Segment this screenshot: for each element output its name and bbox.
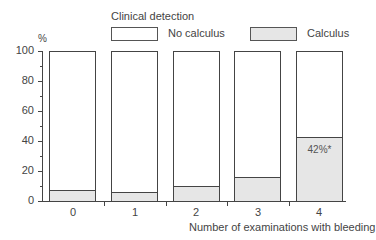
y-tick-label: 80 [6,74,34,86]
bar-3-calculus [235,177,280,201]
legend-swatch-calculus [250,27,297,41]
y-minor-tick [40,126,42,127]
bar-2 [173,51,220,202]
y-tick [38,81,42,82]
y-axis-line [42,51,43,202]
x-tick [227,202,228,206]
x-tick [104,202,105,206]
x-tick-label: 1 [125,206,145,218]
y-tick [38,171,42,172]
y-tick [38,201,42,202]
x-tick-label: 4 [309,206,329,218]
bar-1-calculus [112,192,157,201]
y-tick-label: 0 [6,194,34,206]
bar-3 [234,51,281,202]
legend-label-calculus: Calculus [307,27,349,39]
x-tick-label: 0 [63,206,83,218]
bar-0 [49,51,96,202]
y-tick-label: 40 [6,134,34,146]
y-tick-label: 20 [6,164,34,176]
y-minor-tick [40,186,42,187]
y-minor-tick [40,96,42,97]
bar-2-calculus [174,186,219,201]
bar-1 [111,51,158,202]
legend-label-no-calculus: No calculus [168,27,225,39]
bar-0-calculus [50,190,95,201]
bar-4 [296,51,343,202]
y-minor-tick [40,66,42,67]
x-tick [166,202,167,206]
y-minor-tick [40,156,42,157]
x-tick-label: 3 [248,206,268,218]
legend-swatch-no-calculus [111,27,158,41]
y-tick-label: 100 [6,44,34,56]
x-tick [289,202,290,206]
y-axis-unit: % [38,33,47,44]
x-tick-label: 2 [186,206,206,218]
y-tick [38,51,42,52]
bar-4-annotation: 42%* [296,144,343,155]
y-tick [38,141,42,142]
legend-title: Clinical detection [111,10,194,22]
x-axis-title: Number of examinations with bleeding [189,221,376,233]
y-tick [38,111,42,112]
y-tick-label: 60 [6,104,34,116]
